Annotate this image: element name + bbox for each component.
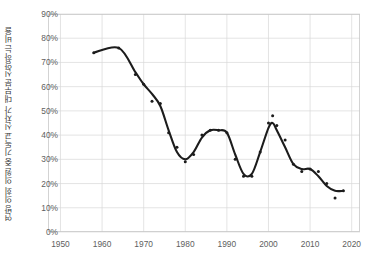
data-point (225, 131, 228, 134)
data-point (259, 151, 262, 154)
data-point (175, 146, 178, 149)
data-point (242, 175, 245, 178)
data-point (134, 73, 137, 76)
data-point (167, 131, 170, 134)
data-point (309, 168, 312, 171)
data-point (342, 189, 345, 192)
data-point (92, 51, 95, 54)
data-point (275, 124, 278, 127)
data-point (117, 46, 120, 49)
data-point (334, 197, 337, 200)
data-point (142, 83, 145, 86)
data-point (192, 153, 195, 156)
data-point (300, 170, 303, 173)
chart-container: 연방 의회 의원 중 기독교 신자가 대부분 신앙하는 비율 0%10%20%3… (0, 0, 376, 260)
data-point (151, 100, 154, 103)
data-point (292, 163, 295, 166)
data-point (159, 102, 162, 105)
trend-line (94, 47, 344, 191)
data-point (325, 182, 328, 185)
data-point (317, 170, 320, 173)
data-point (200, 134, 203, 137)
data-point (184, 160, 187, 163)
plot-frame (48, 14, 359, 231)
data-point (267, 122, 270, 125)
data-point (250, 175, 253, 178)
data-point (271, 114, 274, 117)
data-point (217, 129, 220, 132)
plot-area (0, 0, 376, 260)
data-point (209, 129, 212, 132)
data-point (284, 138, 287, 141)
data-point (234, 158, 237, 161)
